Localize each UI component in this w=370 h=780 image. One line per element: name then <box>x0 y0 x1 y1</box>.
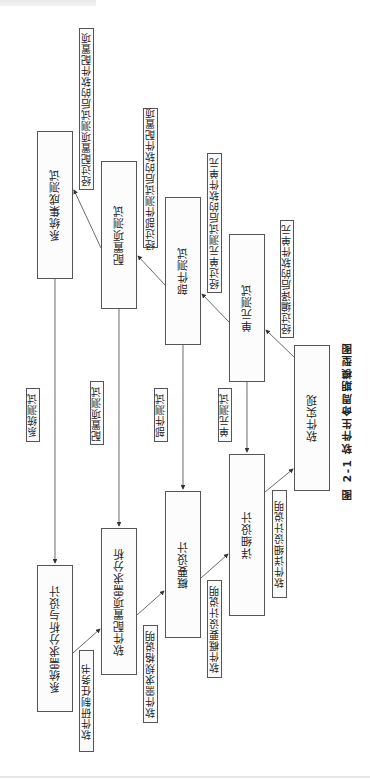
figure-caption: 图 2-1 软件生命周期模型图 <box>336 340 358 500</box>
box-label: 部件测试 <box>178 247 189 295</box>
label-text: 软件概要设计说明 <box>210 585 220 673</box>
box-system-requirements-design: 系统需求分析与设计 <box>37 565 73 712</box>
label-preliminary-design-doc: 软件概要设计说明 <box>207 580 222 678</box>
label-text: 配置项测试 <box>92 386 102 441</box>
label-text: 经过部件测试后的软件配置项 <box>146 107 156 250</box>
label-unit-test: 单元测试 <box>218 388 232 442</box>
box-label: 软件配置项需求分析 <box>114 548 125 656</box>
label-text: 软件需求规格说明 <box>146 630 156 718</box>
label-requirements-spec: 软件需求规格说明 <box>143 625 158 723</box>
box-software-config-item-requirements: 软件配置项需求分析 <box>101 528 137 675</box>
box-component-test: 部件测试 <box>165 197 201 345</box>
scan-edge-strip <box>0 0 96 6</box>
label-component-test: 部件测试 <box>154 388 168 442</box>
box-label: 概要设计 <box>178 541 189 589</box>
label-text: 部件测试 <box>156 393 166 437</box>
label-detailed-design-doc: 软件详细设计说明 <box>272 490 287 598</box>
box-label: 系统集成测试 <box>50 169 61 241</box>
label-config-item-test: 配置项测试 <box>90 381 104 445</box>
label-text: 经过单元测试后的软件单元 <box>210 157 220 289</box>
page-bottom-edge <box>0 776 370 778</box>
box-software-implementation: 软件实现 <box>294 345 330 491</box>
box-unit-test: 单元测试 <box>229 234 265 382</box>
label-text: 系统测试 <box>28 393 38 437</box>
box-label: 详细设计 <box>242 511 253 559</box>
label-text: 经过配置项测试后的软件配置项 <box>82 32 92 186</box>
box-label: 软件实现 <box>307 394 318 442</box>
box-label: 单元测试 <box>242 284 253 332</box>
box-system-integration-test: 系统集成测试 <box>37 131 73 279</box>
label-system-test: 系统测试 <box>26 388 40 442</box>
box-label: 系统需求分析与设计 <box>50 585 61 693</box>
box-detailed-design: 详细设计 <box>229 454 265 616</box>
caption-text: 图 2-1 软件生命周期模型图 <box>342 341 353 500</box>
label-after-unit-test: 经过单元测试后的软件单元 <box>207 153 222 293</box>
box-preliminary-design: 概要设计 <box>165 491 201 638</box>
label-text: 单元测试 <box>220 393 230 437</box>
box-label: 配置项测试 <box>114 205 125 265</box>
label-after-component-test: 经过部件测试后的软件配置项 <box>143 108 158 248</box>
label-text: 经过编译后的软件单元 <box>282 224 292 334</box>
label-after-config-item-test: 经过配置项测试后的软件配置项 <box>79 28 94 190</box>
label-text: 软件详细设计说明 <box>275 500 285 588</box>
label-text: 软件研制任务书 <box>82 663 92 740</box>
label-dev-task-book: 软件研制任务书 <box>79 650 94 752</box>
box-config-item-test: 配置项测试 <box>101 161 137 309</box>
label-after-compile: 经过编译后的软件单元 <box>280 220 294 338</box>
